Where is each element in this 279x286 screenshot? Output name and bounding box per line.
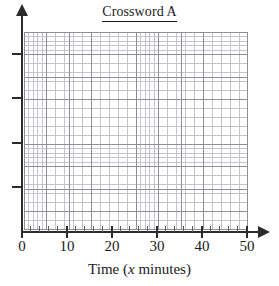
- x-minor-tick-8: [57, 226, 58, 232]
- x-minor-tick-48: [237, 226, 238, 232]
- y-tick-3: [12, 142, 23, 144]
- x-tick-label-10: 10: [47, 237, 87, 255]
- chart-title-text: Crossword A: [102, 3, 177, 22]
- x-minor-tick-34: [174, 226, 175, 232]
- x-tick-label-40: 40: [182, 237, 222, 255]
- x-minor-tick-22: [120, 226, 121, 232]
- x-minor-tick-44: [219, 226, 220, 232]
- x-minor-tick-4: [39, 226, 40, 232]
- x-axis-title: Time (x minutes): [0, 260, 279, 279]
- x-axis-title-variable: x: [128, 261, 135, 277]
- x-minor-tick-38: [192, 226, 193, 232]
- y-tick-4: [12, 186, 23, 188]
- x-minor-tick-12: [75, 226, 76, 232]
- y-axis-arrow-icon: [16, 4, 28, 16]
- plot-area-grid: [24, 32, 248, 230]
- x-tick-label-0: 0: [2, 237, 42, 255]
- y-axis-line: [21, 14, 23, 233]
- x-minor-tick-24: [129, 226, 130, 232]
- x-axis-title-prefix: Time (: [88, 261, 128, 277]
- y-tick-1: [12, 53, 23, 55]
- x-minor-tick-46: [228, 226, 229, 232]
- y-tick-2: [12, 97, 23, 99]
- chart-title: Crossword A: [0, 3, 279, 22]
- x-minor-tick-16: [93, 226, 94, 232]
- x-tick-label-20: 20: [92, 237, 132, 255]
- x-minor-tick-18: [102, 226, 103, 232]
- x-minor-tick-42: [210, 226, 211, 232]
- x-minor-tick-26: [138, 226, 139, 232]
- x-minor-tick-6: [48, 226, 49, 232]
- x-tick-label-50: 50: [227, 237, 267, 255]
- x-minor-tick-14: [84, 226, 85, 232]
- x-minor-tick-32: [165, 226, 166, 232]
- crossword-a-graph-figure: Crossword A 01020304050 Time (x minutes): [0, 0, 279, 286]
- x-minor-tick-2: [30, 226, 31, 232]
- x-minor-tick-28: [147, 226, 148, 232]
- x-minor-tick-36: [183, 226, 184, 232]
- x-axis-title-suffix: minutes): [135, 261, 191, 277]
- x-tick-label-30: 30: [137, 237, 177, 255]
